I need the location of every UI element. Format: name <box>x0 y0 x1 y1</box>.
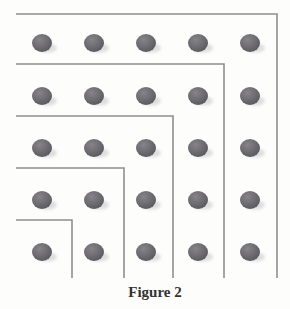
dot <box>188 34 208 52</box>
dot <box>240 87 260 105</box>
dot <box>188 139 208 157</box>
dot <box>84 191 104 209</box>
dot <box>84 87 104 105</box>
dot <box>136 243 156 261</box>
dot <box>240 34 260 52</box>
pebble-gnomon-figure: Figure 2 <box>0 0 290 309</box>
dot <box>32 191 52 209</box>
figure-caption: Figure 2 <box>128 284 181 300</box>
dot <box>84 243 104 261</box>
dot <box>84 139 104 157</box>
dot <box>32 34 52 52</box>
dot <box>240 191 260 209</box>
dot <box>84 34 104 52</box>
dot <box>32 243 52 261</box>
dot <box>136 34 156 52</box>
dot <box>32 139 52 157</box>
dot <box>188 243 208 261</box>
dot <box>136 139 156 157</box>
dot <box>240 139 260 157</box>
dot <box>136 191 156 209</box>
dot <box>32 87 52 105</box>
dot <box>240 243 260 261</box>
dot <box>188 191 208 209</box>
dot <box>188 87 208 105</box>
figure-2-diagram: Figure 2 <box>0 0 290 309</box>
dot <box>136 87 156 105</box>
